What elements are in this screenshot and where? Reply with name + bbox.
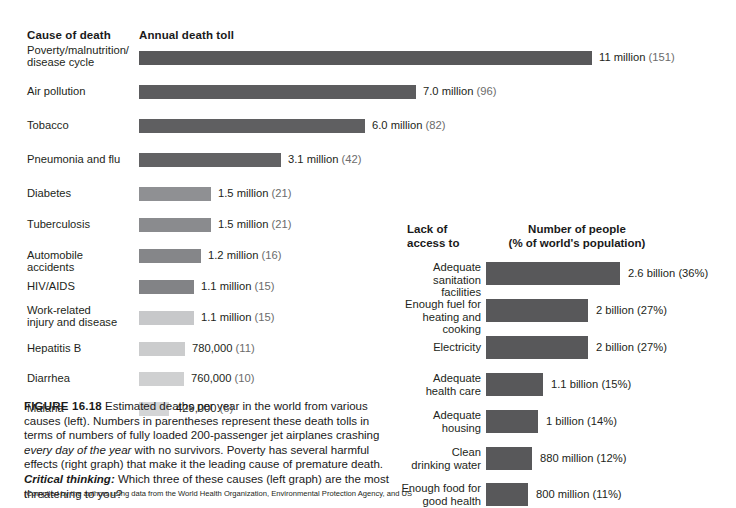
figure-credit: (Compiled by the authors using data from…	[24, 489, 424, 499]
left-chart-value-number: 7.0 million	[423, 85, 476, 97]
right-chart-row: Clean drinking water880 million (12%)	[395, 447, 736, 473]
right-chart-value-label: 1 billion (14%)	[546, 415, 617, 427]
left-chart-value-label: 6.0 million (82)	[372, 119, 445, 131]
right-chart-bar	[486, 483, 528, 506]
left-chart-bar	[139, 51, 592, 65]
left-chart-value-parenthetical: (21)	[271, 187, 291, 199]
right-chart-value-label: 2 billion (27%)	[596, 341, 667, 353]
left-chart-bar	[139, 85, 416, 99]
left-chart-value-parenthetical: (11)	[236, 342, 255, 354]
left-chart-row-label: Work-related injury and disease	[27, 304, 132, 329]
left-chart-value-label: 1.5 million (21)	[218, 218, 291, 230]
left-chart-row: Automobile accidents1.2 million (16)	[0, 242, 400, 272]
right-chart-bar	[486, 262, 620, 285]
left-chart-bar	[139, 372, 184, 386]
left-chart-bar	[139, 280, 194, 294]
lack-of-access-chart: Lack of access to Number of people (% of…	[395, 215, 736, 508]
right-chart-row: Electricity2 billion (27%)	[395, 336, 736, 362]
left-chart-row: Hepatitis B780,000 (11)	[0, 335, 400, 365]
left-chart-value-number: 3.1 million	[288, 153, 341, 165]
left-chart-value-label: 11 million (151)	[599, 51, 675, 63]
left-chart-value-parenthetical: (15)	[254, 311, 274, 323]
right-chart-row-label: Adequate health care	[395, 372, 481, 397]
left-chart-row-label: Pneumonia and flu	[27, 153, 132, 165]
left-chart-value-number: 780,000	[192, 342, 236, 354]
right-chart-bar	[486, 373, 543, 396]
left-chart-value-label: 780,000 (11)	[192, 342, 255, 354]
right-chart-category-header: Lack of access to	[407, 223, 459, 250]
left-chart-value-parenthetical: (21)	[271, 218, 291, 230]
left-chart-bar	[139, 153, 281, 167]
right-chart-value-label: 880 million (12%)	[540, 452, 626, 464]
right-chart-value-label: 2 billion (27%)	[596, 304, 667, 316]
left-chart-value-parenthetical: (16)	[261, 249, 281, 261]
right-chart-row-label: Adequate housing	[395, 409, 481, 434]
left-chart-row-label: Tuberculosis	[27, 218, 132, 230]
left-chart-value-number: 6.0 million	[372, 119, 425, 131]
right-chart-bar	[486, 299, 588, 322]
right-chart-row-label: Clean drinking water	[395, 446, 481, 471]
left-chart-value-label: 760,000 (10)	[191, 372, 254, 384]
right-chart-value-label: 1.1 billion (15%)	[551, 378, 631, 390]
left-chart-value-label: 1.1 million (15)	[201, 311, 274, 323]
left-chart-bar	[139, 311, 194, 325]
left-chart-value-parenthetical: (15)	[254, 280, 274, 292]
caption-italic: every day of the year	[24, 444, 131, 456]
figure-caption: FIGURE 16.18 Estimated deaths per year i…	[24, 399, 396, 501]
right-chart-bar	[486, 336, 588, 359]
left-chart-value-number: 1.1 million	[201, 311, 254, 323]
left-chart-row-label: Diarrhea	[27, 372, 132, 384]
right-chart-row: Adequate health care1.1 billion (15%)	[395, 373, 736, 399]
left-chart-value-number: 1.1 million	[201, 280, 254, 292]
left-chart-value-number: 1.5 million	[218, 187, 271, 199]
left-chart-value-label: 7.0 million (96)	[423, 85, 496, 97]
left-chart-bar	[139, 342, 185, 356]
left-chart-value-parenthetical: (42)	[341, 153, 361, 165]
left-chart-title: Annual death toll	[139, 29, 234, 41]
right-chart-value-label: 800 million (11%)	[536, 488, 622, 500]
left-chart-row-label: HIV/AIDS	[27, 280, 132, 292]
left-chart-value-number: 1.2 million	[208, 249, 261, 261]
left-chart-row: Tuberculosis1.5 million (21)	[0, 211, 400, 241]
left-chart-value-parenthetical: (10)	[235, 372, 255, 384]
right-chart-bar	[486, 410, 538, 433]
right-chart-bar	[486, 447, 532, 470]
right-chart-value-label: 2.6 billion (36%)	[628, 267, 708, 279]
right-chart-row: Adequate housing1 billion (14%)	[395, 410, 736, 436]
left-chart-row: HIV/AIDS1.1 million (15)	[0, 273, 400, 303]
left-chart-value-label: 1.2 million (16)	[208, 249, 281, 261]
left-chart-row-label: Poverty/malnutrition/ disease cycle	[27, 44, 132, 69]
right-chart-row: Enough food for good health800 million (…	[395, 483, 736, 508]
left-chart-row: Work-related injury and disease1.1 milli…	[0, 304, 400, 334]
left-chart-bar	[139, 249, 201, 263]
left-chart-row: Air pollution7.0 million (96)	[0, 78, 400, 108]
left-chart-row-label: Tobacco	[27, 119, 132, 131]
right-chart-row-label: Enough fuel for heating and cooking	[395, 298, 481, 336]
left-chart-row: Diarrhea760,000 (10)	[0, 365, 400, 395]
left-chart-row: Poverty/malnutrition/ disease cycle11 mi…	[0, 44, 400, 74]
left-chart-value-number: 1.5 million	[218, 218, 271, 230]
left-chart-row: Pneumonia and flu3.1 million (42)	[0, 146, 400, 176]
right-chart-row: Adequate sanitation facilities2.6 billio…	[395, 262, 736, 288]
left-chart-value-number: 760,000	[191, 372, 235, 384]
left-chart-value-parenthetical: (82)	[425, 119, 445, 131]
left-chart-bar	[139, 218, 211, 232]
right-chart-title: Number of people (% of world's populatio…	[472, 223, 682, 250]
critical-thinking-label: Critical thinking:	[24, 473, 115, 485]
left-chart-value-number: 11 million	[599, 51, 649, 63]
left-chart-row-label: Diabetes	[27, 187, 132, 199]
left-chart-value-label: 1.5 million (21)	[218, 187, 291, 199]
left-chart-value-parenthetical: (151)	[649, 51, 675, 63]
left-chart-category-header: Cause of death	[27, 29, 111, 41]
right-chart-row: Enough fuel for heating and cooking2 bil…	[395, 299, 736, 325]
left-chart-row-label: Air pollution	[27, 85, 132, 97]
left-chart-value-label: 3.1 million (42)	[288, 153, 361, 165]
left-chart-bar	[139, 119, 365, 133]
annual-death-toll-chart: Cause of death Annual death toll Poverty…	[0, 0, 400, 400]
left-chart-value-parenthetical: (96)	[476, 85, 496, 97]
left-chart-row: Diabetes1.5 million (21)	[0, 180, 400, 210]
left-chart-row-label: Hepatitis B	[27, 342, 132, 354]
left-chart-bar	[139, 187, 211, 201]
left-chart-value-label: 1.1 million (15)	[201, 280, 274, 292]
left-chart-row: Tobacco6.0 million (82)	[0, 112, 400, 142]
